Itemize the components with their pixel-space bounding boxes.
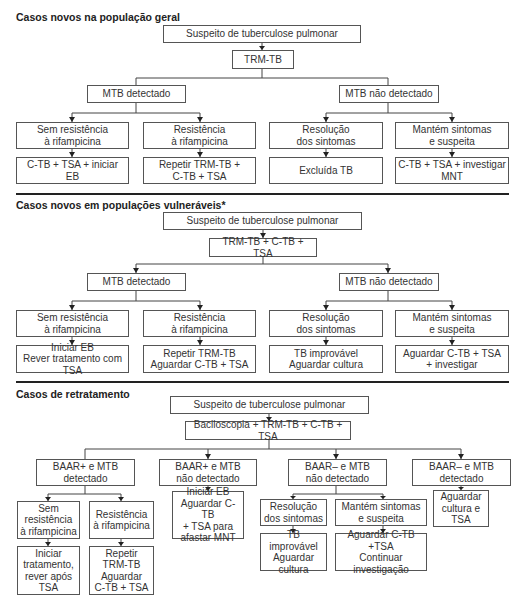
section-title-vulnerable-populations: Casos novos em populações vulneráveis* [16,199,226,211]
mtb-not-detected-box: MTB não detectado [339,273,439,291]
persistent-symptoms-box: Mantém sintomas e suspeita [335,499,427,526]
persistent-symptoms-box: Mantém sintomas e suspeita [395,310,509,337]
action-box: Aguardar C-TB + TSA + investigar [395,345,509,373]
no-rifampicin-resistance-box: Sem resistência à rifampicina [16,310,129,337]
rifampicin-resistance-box: Resistência à rifampicina [143,310,256,337]
rifampicin-resistance-box: Resistência à rifampicina [143,122,256,149]
suspect-tb-box: Suspeito de tuberculose pulmonar [163,212,362,230]
baar-pos-mtb-not-detected-box: BAAR+ e MTB não detectado [159,459,257,486]
baar-neg-mtb-not-detected-box: BAAR– e MTB não detectado [288,459,387,486]
action-box: Repetir TRM-TB + C-TB + TSA [143,157,256,184]
suspect-tb-box: Suspeito de tuberculose pulmonar [170,396,369,414]
action-box: Iniciar tratamento, rever após TSA [17,546,80,595]
symptom-resolution-box: Resolução dos sintomas [260,499,327,526]
section-title-general-population: Casos novos na população geral [16,11,180,23]
action-box: Aguardar cultura e TSA [433,490,489,527]
mtb-detected-box: MTB detectado [87,85,186,103]
mtb-detected-box: MTB detectado [87,273,186,291]
action-box: TB improvável Aguardar cultura [269,345,383,373]
section-title-retreatment: Casos de retratamento [16,388,130,400]
action-box: Repetir TRM-TB Aguardar C-TB + TSA [143,345,256,373]
action-box: Aguardar C-TB +TSA Continuar investigaçã… [335,533,427,571]
section-divider [16,381,509,383]
test-box: TRM-TB + C-TB + TSA [209,238,317,257]
test-box: TRM-TB [232,50,294,69]
action-box: C-TB + TSA + investigar MNT [395,157,509,184]
symptom-resolution-box: Resolução dos sintomas [269,310,383,337]
section-divider [16,193,509,195]
no-rifampicin-resistance-box: Sem resistência à rifampicina [17,501,80,539]
baar-neg-mtb-detected-box: BAAR– e MTB detectado [412,459,511,486]
action-box: Repetir TRM-TB Aguardar C-TB + TSA [89,546,154,595]
action-box: Iniciar EB Aguardar C-TB + TSA para afas… [172,491,244,539]
persistent-symptoms-box: Mantém sintomas e suspeita [395,122,509,149]
action-box: Iniciar EB Rever tratamento com TSA [16,345,129,373]
symptom-resolution-box: Resolução dos sintomas [269,122,383,149]
action-box: TB improvável Aguardar cultura [260,533,327,571]
rifampicin-resistance-box: Resistência à rifampicina [89,501,154,539]
action-box: Excluída TB [269,157,383,184]
test-box: Baciloscopia + TRM-TB + C-TB + TSA [185,421,351,440]
mtb-not-detected-box: MTB não detectado [339,85,439,103]
action-box: C-TB + TSA + iniciar EB [16,157,129,184]
suspect-tb-box: Suspeito de tuberculose pulmonar [163,25,361,43]
baar-pos-mtb-detected-box: BAAR+ e MTB detectado [36,459,135,486]
no-rifampicin-resistance-box: Sem resistência à rifampicina [16,122,129,149]
